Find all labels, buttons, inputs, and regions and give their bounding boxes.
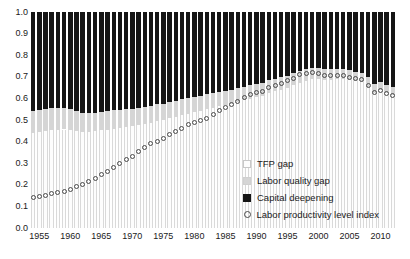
x-axis-tick-label: 1980	[184, 231, 204, 241]
legend-item-labor-productivity-level-index: Labor productivity level index	[243, 206, 408, 223]
legend-item-tfp-gap: TFP gap	[243, 155, 408, 172]
data-point-marker	[328, 73, 333, 78]
y-axis-tick-label: 0.1	[2, 202, 28, 211]
data-point-marker	[49, 191, 54, 196]
x-axis-tick-label: 1985	[215, 231, 235, 241]
y-axis: 1.00.90.80.70.60.50.40.30.20.10.0	[0, 12, 28, 228]
capital-deepening-swatch-icon	[243, 194, 251, 202]
data-point-marker	[55, 190, 60, 195]
data-point-marker	[211, 112, 216, 117]
x-axis-tick-label: 2005	[339, 231, 359, 241]
data-point-marker	[316, 71, 321, 76]
data-point-marker	[359, 77, 364, 82]
data-point-marker	[223, 105, 228, 110]
data-point-marker	[117, 161, 122, 166]
data-point-marker	[130, 154, 135, 159]
data-point-marker	[254, 90, 259, 95]
data-point-marker	[304, 71, 309, 76]
data-point-marker	[229, 102, 234, 107]
x-axis-tick-label: 1975	[153, 231, 173, 241]
data-point-marker	[273, 83, 278, 88]
data-point-marker	[99, 172, 104, 177]
x-axis: 1955196019651970197519801985199019952000…	[30, 231, 396, 245]
data-point-marker	[142, 145, 147, 150]
data-point-marker	[186, 122, 191, 127]
data-point-marker	[161, 136, 166, 141]
legend-label-tfp-gap: TFP gap	[257, 159, 293, 169]
data-point-marker	[173, 129, 178, 134]
data-point-marker	[260, 89, 265, 94]
x-axis-tick-label: 1955	[29, 231, 49, 241]
data-point-marker	[43, 193, 48, 198]
tfp-swatch-icon	[243, 160, 251, 168]
data-point-marker	[248, 92, 253, 97]
data-point-marker	[167, 132, 172, 137]
data-point-marker	[291, 76, 296, 81]
x-axis-tick-label: 1960	[60, 231, 80, 241]
data-point-marker	[372, 90, 377, 95]
y-axis-tick-label: 0.4	[2, 137, 28, 146]
data-point-marker	[198, 118, 203, 123]
y-axis-tick-label: 1.0	[2, 8, 28, 17]
y-axis-tick-label: 0.9	[2, 29, 28, 38]
x-axis-tick-label: 1970	[122, 231, 142, 241]
data-point-marker	[93, 176, 98, 181]
data-point-marker	[285, 78, 290, 83]
data-point-marker	[105, 169, 110, 174]
data-point-marker	[235, 99, 240, 104]
data-point-marker	[378, 88, 383, 93]
data-point-marker	[297, 72, 302, 77]
x-axis-tick-label: 2010	[370, 231, 390, 241]
x-axis-tick-label: 2000	[308, 231, 328, 241]
data-point-marker	[217, 108, 222, 113]
y-axis-tick-label: 0.3	[2, 159, 28, 168]
x-axis-tick-label: 1965	[91, 231, 111, 241]
open-circle-marker-icon	[244, 211, 251, 218]
data-point-marker	[68, 187, 73, 192]
legend-item-capital-deepening: Capital deepening	[243, 189, 408, 206]
legend-label-capital-deepening: Capital deepening	[257, 193, 334, 203]
data-point-marker	[124, 157, 129, 162]
labor-quality-swatch-icon	[243, 177, 251, 185]
data-point-marker	[335, 73, 340, 78]
data-point-marker	[80, 182, 85, 187]
data-point-marker	[136, 149, 141, 154]
data-point-marker	[37, 194, 42, 199]
data-point-marker	[347, 75, 352, 80]
data-point-marker	[179, 126, 184, 131]
data-point-marker	[366, 83, 371, 88]
chart-legend: TFP gap Labor quality gap Capital deepen…	[243, 155, 408, 223]
data-point-marker	[204, 116, 209, 121]
data-point-marker	[384, 91, 389, 96]
data-point-marker	[279, 81, 284, 86]
data-point-marker	[86, 179, 91, 184]
stacked-bar-chart-figure: 1.00.90.80.70.60.50.40.30.20.10.0 195519…	[0, 0, 410, 259]
y-axis-tick-label: 0.8	[2, 51, 28, 60]
data-point-marker	[111, 165, 116, 170]
y-axis-tick-label: 0.2	[2, 180, 28, 189]
y-axis-tick-label: 0.5	[2, 116, 28, 125]
x-axis-tick-label: 1990	[246, 231, 266, 241]
data-point-marker	[353, 76, 358, 81]
data-point-marker	[322, 73, 327, 78]
data-point-marker	[74, 184, 79, 189]
data-point-marker	[192, 120, 197, 125]
y-axis-tick-label: 0.6	[2, 94, 28, 103]
data-point-marker	[155, 139, 160, 144]
x-axis-tick-label: 1995	[277, 231, 297, 241]
legend-item-labor-quality-gap: Labor quality gap	[243, 172, 408, 189]
data-point-marker	[148, 141, 153, 146]
y-axis-tick-label: 0.0	[2, 224, 28, 233]
data-point-marker	[242, 95, 247, 100]
data-point-marker	[62, 189, 67, 194]
data-point-marker	[341, 73, 346, 78]
data-point-marker	[31, 195, 36, 200]
data-point-marker	[390, 93, 395, 98]
y-axis-tick-label: 0.7	[2, 72, 28, 81]
data-point-marker	[310, 70, 315, 75]
legend-label-labor-productivity-level-index: Labor productivity level index	[257, 210, 380, 220]
legend-label-labor-quality-gap: Labor quality gap	[257, 176, 330, 186]
data-point-marker	[266, 85, 271, 90]
